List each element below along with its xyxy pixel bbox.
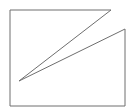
- polygon-shape: [10, 10, 125, 106]
- diagram-canvas: [0, 0, 132, 110]
